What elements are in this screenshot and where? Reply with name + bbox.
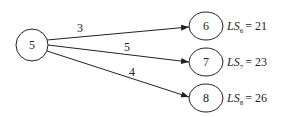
ls-label-7: LS7= 23 [226,55,267,71]
edge-weight-5-6: 3 [77,21,83,35]
network-diagram: 3 5 4 5 6 7 8 LS6= 21 LS7= 23 LS8= 26 [0,0,285,117]
edge-weight-5-8: 4 [129,65,135,79]
node-5: 5 [16,29,48,61]
node-6: 6 [189,12,223,40]
node-8: 8 [189,84,223,112]
edge-5-8 [47,51,189,97]
node-7: 7 [189,48,223,76]
node-6-label: 6 [203,19,209,33]
edge-weight-5-7: 5 [124,40,130,54]
edge-5-6 [47,27,189,40]
ls-label-6: LS6= 21 [226,19,267,35]
ls-label-8: LS8= 26 [226,91,267,107]
node-8-label: 8 [203,91,209,105]
node-5-label: 5 [29,38,35,52]
node-7-label: 7 [203,55,209,69]
edge-5-7 [48,45,189,62]
